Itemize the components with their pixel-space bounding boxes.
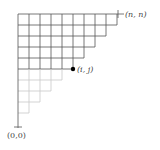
label-origin: (0,0) xyxy=(7,131,26,140)
lattice-grid xyxy=(18,14,117,113)
point-ij-marker xyxy=(71,67,75,71)
label-ij: (i, j) xyxy=(77,65,93,74)
label-nn: (n, n) xyxy=(125,10,147,19)
staircase-lattice-diagram: (n, n) (i, j) (0,0) xyxy=(0,0,160,150)
